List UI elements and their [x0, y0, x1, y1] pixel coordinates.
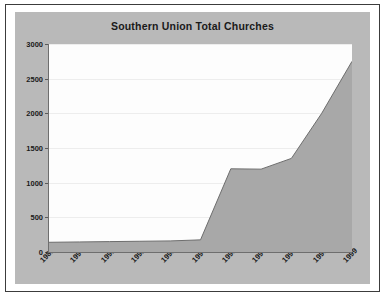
y-axis-tick-label: 500: [9, 213, 43, 222]
y-axis-tick-label: 1000: [9, 178, 43, 187]
chart-page: Southern Union Total Churches 0500100015…: [0, 0, 385, 302]
y-axis-tick-label: 2000: [9, 109, 43, 118]
plot-area: [48, 44, 352, 253]
y-axis-tick-label: 2500: [9, 74, 43, 83]
y-axis-tick-label: 0: [9, 248, 43, 257]
y-axis-tick-label: 1500: [9, 144, 43, 153]
chart-container: Southern Union Total Churches 0500100015…: [15, 12, 370, 284]
chart-title: Southern Union Total Churches: [15, 20, 370, 32]
y-axis-tick-label: 3000: [9, 40, 43, 49]
area-series: [49, 44, 352, 252]
